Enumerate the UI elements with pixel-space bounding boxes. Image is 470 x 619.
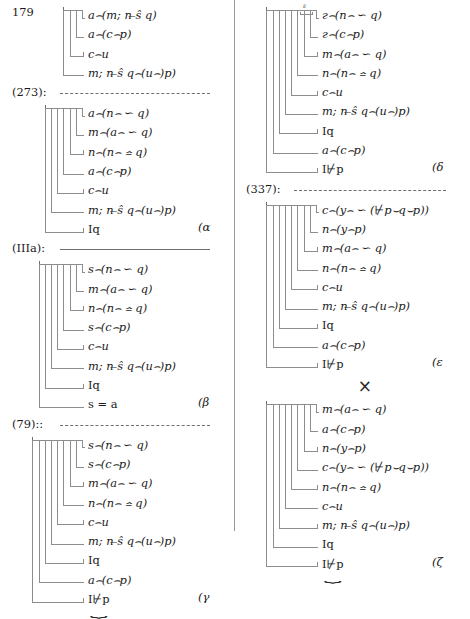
formula-text: a⌢(n⌢ ∽ q) [88,104,149,123]
formula-text: n⌢(y⌢p) [322,220,366,239]
greek-label: (ζ [432,555,443,569]
separator-label: (IIIa): [12,241,45,255]
formula-text: c⌢u [88,181,109,200]
formula-text: n⌢(n⌢ ≏ q) [88,143,147,162]
formula-text: n⌢(n⌢ ≏ q) [322,64,381,83]
formula-text: г⌢(c⌢p) [322,25,364,44]
formula-text: m; n ̶ŝ q⌢(u⌢)p) [322,516,410,535]
formula-text: a⌢(c⌢p) [88,162,131,181]
formula-text: n⌢(y⌢p) [322,439,366,458]
formula-text: c⌢u [322,278,343,297]
formula-text: m; n ̶ŝ q⌢(u⌢)p) [88,357,176,376]
separator-line [60,93,210,94]
separator-label: (337): [246,182,280,196]
formula-text: m⌢(a⌢ ∽ q) [322,400,387,419]
formula-text: Iq [88,551,100,570]
formula-text: s⌢(n⌢ ∽ q) [88,436,148,455]
formula-text: m⌢(a⌢ ∽ q) [88,280,153,299]
separator-line [294,190,446,191]
formula-text: m⌢(a⌢ ∽ q) [88,123,153,142]
formula-text: Iq [322,316,334,335]
formula-text: a⌢(c⌢p) [322,336,365,355]
separator-line [60,425,210,426]
separator-label: (79):: [12,417,43,431]
formula-text: Iq [322,535,334,554]
greek-label: (γ [198,590,209,604]
formula-text: c⌢u [88,513,109,532]
formula-text: m⌢(a⌢ ∽ q) [88,474,153,493]
formula-text: n⌢(n⌢ ≏ q) [322,478,381,497]
formula-text: m; n ̶ŝ q⌢(u⌢)p) [322,297,410,316]
formula-text: n⌢(n⌢ ≏ q) [88,299,147,318]
formula-text: c⌢u [88,337,109,356]
formula-text: a⌢(c⌢p) [88,25,131,44]
formula-text: n⌢(n⌢ ≏ q) [322,259,381,278]
formula-text: г⌢(n⌢ ∽ q) [322,6,382,25]
formula-text: m⌢(a⌢ ∽ q) [322,239,387,258]
underbrace: ⏟ [324,572,341,584]
formula-text: I⊬p [322,355,344,374]
formula-text: a⌢(m; n ̶ŝ q) [88,6,157,25]
column-divider [234,0,235,531]
formula-text: s = a [88,395,117,414]
formula-text: m⌢(a⌢ ∽ q) [322,45,387,64]
formula-text: s⌢(c⌢p) [88,455,130,474]
formula-text: a⌢(c⌢p) [88,571,131,590]
formula-text: c⌢u [88,45,109,64]
formula-text: m; n ̶ŝ q⌢(u⌢)p) [88,201,176,220]
greek-label: (β [198,395,209,409]
underbrace: ⏟ [90,607,107,619]
formula-text: I⊬p [322,160,344,179]
greek-label: (ε [432,355,443,369]
separator-label: (273): [12,85,46,99]
formula-text: n⌢(n⌢ ≏ q) [88,494,147,513]
separator-line [60,249,210,250]
right-column: г⌢(n⌢ ∽ q)г⌢(c⌢p)m⌢(a⌢ ∽ q)n⌢(n⌢ ≏ q)c⌢u… [236,0,470,531]
formula-text: s⌢(n⌢ ∽ q) [88,260,148,279]
times-marker: × [358,376,372,396]
formula-text: m; n ̶ŝ q⌢(u⌢)p) [88,532,176,551]
formula-text: m; n ̶ŝ q⌢(u⌢)p) [88,64,176,83]
left-column: a⌢(m; n ̶ŝ q)a⌢(c⌢p)c⌢um; n ̶ŝ q⌢(u⌢)p)1… [0,0,234,531]
formula-text: a⌢(c⌢p) [322,420,365,439]
formula-text: m; n ̶ŝ q⌢(u⌢)p) [322,102,410,121]
formula-text: Iq [322,122,334,141]
formula-text: c⌢(y⌢ ∽ (⊬p⌣q⌣p)) [322,458,429,477]
formula-text: a⌢(c⌢p) [322,141,365,160]
formula-text: s⌢(c⌢p) [88,318,130,337]
formula-text: Iq [88,376,100,395]
greek-label: (α [198,220,210,234]
formula-text: c⌢u [322,83,343,102]
mini-bracket-label: ᴱ [303,4,306,12]
line-number: 179 [12,5,34,19]
formula-text: c⌢(y⌢ ∽ (⊬p⌣q⌣p)) [322,201,429,220]
formula-text: c⌢u [322,497,343,516]
greek-label: (δ [432,160,444,174]
formula-text: Iq [88,220,100,239]
